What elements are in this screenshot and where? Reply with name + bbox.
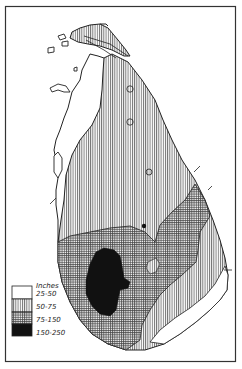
legend-title: Inches [36, 282, 59, 290]
legend-label-25-50: 25-50 [36, 290, 57, 298]
legend-label-75-150: 75-150 [36, 316, 61, 324]
tank-2 [127, 119, 133, 125]
legend-label-150-250: 150-250 [36, 329, 66, 337]
legend-swatch-50-75 [12, 299, 32, 312]
tank-1 [127, 86, 133, 92]
legend-label-50-75: 50-75 [36, 303, 57, 311]
island-2 [62, 41, 68, 46]
rainfall-map: Inches 25-50 50-75 75-150 150-250 [0, 0, 242, 369]
island-3 [48, 47, 54, 53]
legend-swatch-25-50 [12, 286, 32, 299]
legend-swatch-75-150 [12, 312, 32, 324]
rain-station-dot [142, 224, 146, 228]
tank-3 [146, 169, 152, 175]
island-4 [74, 67, 77, 71]
legend-swatch-150-250 [12, 324, 32, 336]
